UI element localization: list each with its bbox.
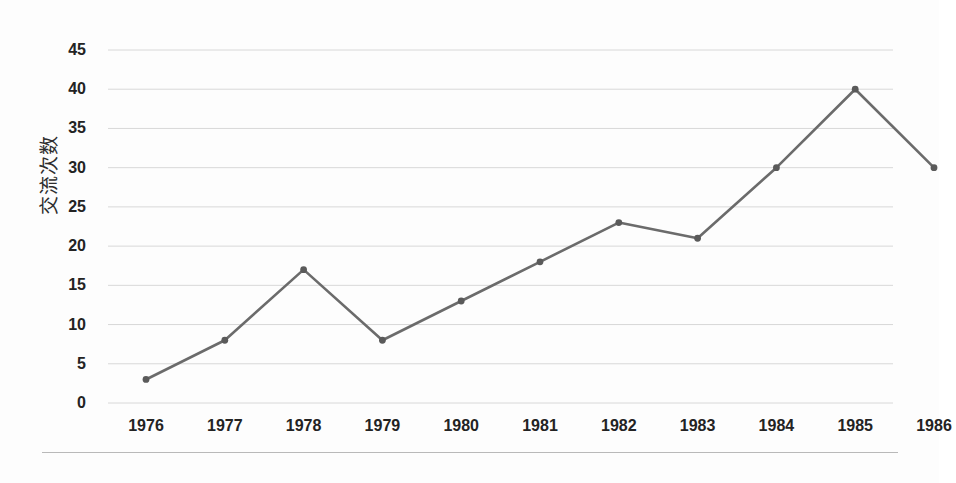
x-tick-label: 1976 [106, 417, 186, 435]
x-tick-label: 1982 [579, 417, 659, 435]
x-tick-label: 1979 [342, 417, 422, 435]
x-tick-label: 1981 [500, 417, 580, 435]
x-tick-label: 1983 [658, 417, 738, 435]
bottom-rule-divider [42, 452, 898, 453]
x-tick-label: 1977 [185, 417, 265, 435]
x-tick-label: 1984 [736, 417, 816, 435]
x-tick-label: 1986 [894, 417, 956, 435]
x-tick-label: 1978 [264, 417, 344, 435]
x-tick-label: 1985 [815, 417, 895, 435]
x-tick-label: 1980 [421, 417, 501, 435]
